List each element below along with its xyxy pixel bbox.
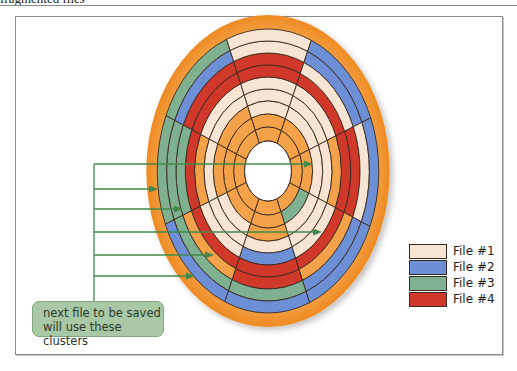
- legend-label: File #1: [453, 244, 495, 258]
- free-clusters-callout: next file to be saved will use these clu…: [32, 301, 164, 337]
- legend-label: File #2: [453, 260, 495, 274]
- disk-spindle-hole: [245, 141, 292, 201]
- legend-item-file-4: File #4: [409, 291, 495, 307]
- callout-line-2: will use these clusters: [43, 320, 163, 348]
- legend-item-file-1: File #1: [409, 243, 495, 259]
- legend-item-file-3: File #3: [409, 275, 495, 291]
- legend-swatch: [409, 276, 447, 291]
- legend-item-file-2: File #2: [409, 259, 495, 275]
- callout-line-1: next file to be saved: [43, 306, 163, 320]
- legend-swatch: [409, 260, 447, 275]
- legend-swatch: [409, 292, 447, 307]
- legend: File #1 File #2 File #3 File #4: [409, 243, 495, 307]
- legend-swatch: [409, 244, 447, 259]
- legend-label: File #4: [453, 292, 495, 306]
- legend-label: File #3: [453, 276, 495, 290]
